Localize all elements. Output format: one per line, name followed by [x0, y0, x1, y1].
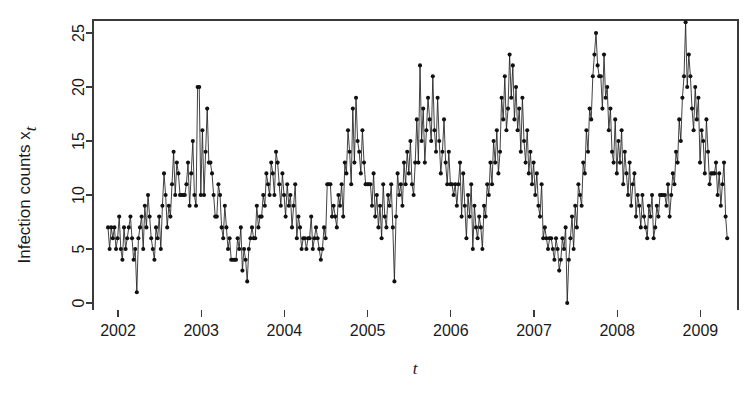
data-point — [693, 85, 697, 89]
data-point — [328, 182, 332, 186]
data-point — [404, 182, 408, 186]
data-point — [288, 193, 292, 197]
data-point — [431, 74, 435, 78]
data-point — [114, 247, 118, 251]
data-point — [725, 236, 729, 240]
data-point — [560, 236, 564, 240]
data-point — [420, 139, 424, 143]
data-point — [546, 247, 550, 251]
data-point — [239, 225, 243, 229]
data-point — [272, 193, 276, 197]
data-point — [492, 139, 496, 143]
data-point — [607, 128, 611, 132]
data-point — [540, 182, 544, 186]
data-point — [285, 182, 289, 186]
data-point — [354, 96, 358, 100]
data-point — [522, 139, 526, 143]
data-point — [338, 204, 342, 208]
data-point — [316, 236, 320, 240]
data-point — [415, 117, 419, 121]
data-point — [447, 150, 451, 154]
data-point — [349, 182, 353, 186]
data-point — [380, 236, 384, 240]
y-tick-label: 5 — [70, 244, 87, 253]
data-point — [645, 236, 649, 240]
data-point — [375, 193, 379, 197]
data-point — [426, 96, 430, 100]
data-point — [690, 107, 694, 111]
data-point — [632, 171, 636, 175]
data-point — [392, 279, 396, 283]
data-point — [684, 20, 688, 24]
data-point — [384, 225, 388, 229]
data-point — [167, 204, 171, 208]
data-point — [170, 182, 174, 186]
data-point — [631, 182, 635, 186]
y-axis-title-text: Infection counts x — [15, 131, 34, 264]
data-point — [400, 204, 404, 208]
data-point — [308, 236, 312, 240]
data-point — [189, 171, 193, 175]
data-point — [359, 171, 363, 175]
data-point — [516, 128, 520, 132]
data-point — [708, 182, 712, 186]
data-point — [132, 258, 136, 262]
data-point — [220, 225, 224, 229]
data-point — [255, 204, 259, 208]
data-point — [412, 193, 416, 197]
data-point — [436, 96, 440, 100]
data-point — [479, 225, 483, 229]
data-point — [583, 171, 587, 175]
data-point — [357, 150, 361, 154]
data-point — [485, 182, 489, 186]
data-point — [333, 215, 337, 219]
data-point — [421, 107, 425, 111]
data-point — [706, 150, 710, 154]
data-point — [197, 85, 201, 89]
data-point — [284, 215, 288, 219]
data-point — [656, 215, 660, 219]
data-point — [244, 258, 248, 262]
data-point — [592, 53, 596, 57]
data-point — [468, 215, 472, 219]
data-point — [444, 161, 448, 165]
data-point — [530, 182, 534, 186]
data-point — [461, 171, 465, 175]
data-point — [108, 247, 112, 251]
data-point — [719, 204, 723, 208]
data-point — [282, 193, 286, 197]
data-point — [143, 204, 147, 208]
data-point — [652, 236, 656, 240]
data-point — [562, 247, 566, 251]
data-point — [640, 193, 644, 197]
data-point — [543, 225, 547, 229]
data-point — [549, 236, 553, 240]
data-point — [378, 204, 382, 208]
data-point — [674, 150, 678, 154]
data-point — [682, 74, 686, 78]
data-point — [130, 236, 134, 240]
data-point — [680, 96, 684, 100]
data-point — [487, 193, 491, 197]
data-point — [386, 193, 390, 197]
data-point — [216, 182, 220, 186]
data-point — [551, 247, 555, 251]
data-point — [112, 225, 116, 229]
data-point — [335, 225, 339, 229]
data-point — [407, 171, 411, 175]
data-point — [172, 150, 176, 154]
data-point — [135, 290, 139, 294]
data-point — [500, 96, 504, 100]
data-point — [269, 161, 273, 165]
data-point — [266, 182, 270, 186]
data-point — [396, 171, 400, 175]
data-point — [322, 225, 326, 229]
data-point — [639, 225, 643, 229]
data-point — [418, 63, 422, 67]
data-point — [175, 161, 179, 165]
data-point — [679, 139, 683, 143]
data-point — [482, 204, 486, 208]
data-point — [669, 193, 673, 197]
data-point — [144, 225, 148, 229]
data-point — [208, 161, 212, 165]
